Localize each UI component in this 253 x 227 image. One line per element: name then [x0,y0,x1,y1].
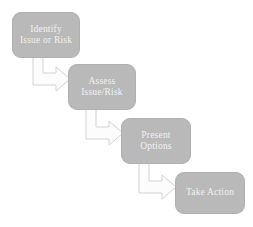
node-label-line: Options [140,141,172,152]
node-present-options[interactable]: Present Options [121,118,191,164]
connector-assess-to-present [86,109,123,145]
node-assess-issue-risk[interactable]: Assess Issue/Risk [68,64,136,110]
node-label-line: Present [141,130,170,141]
node-label-line: Issue or Risk [20,35,72,46]
node-label-line: Take Action [186,187,234,198]
node-label-line: Assess [88,76,115,87]
node-take-action[interactable]: Take Action [175,172,245,214]
flowchart-diagram: Identify Issue or Risk Assess Issue/Risk… [0,0,253,227]
node-identify-issue-or-risk[interactable]: Identify Issue or Risk [12,12,80,58]
connector-identify-to-assess [33,57,70,91]
connector-present-to-action [139,163,176,199]
node-label-line: Issue/Risk [81,87,123,98]
node-label-line: Identify [30,24,62,35]
